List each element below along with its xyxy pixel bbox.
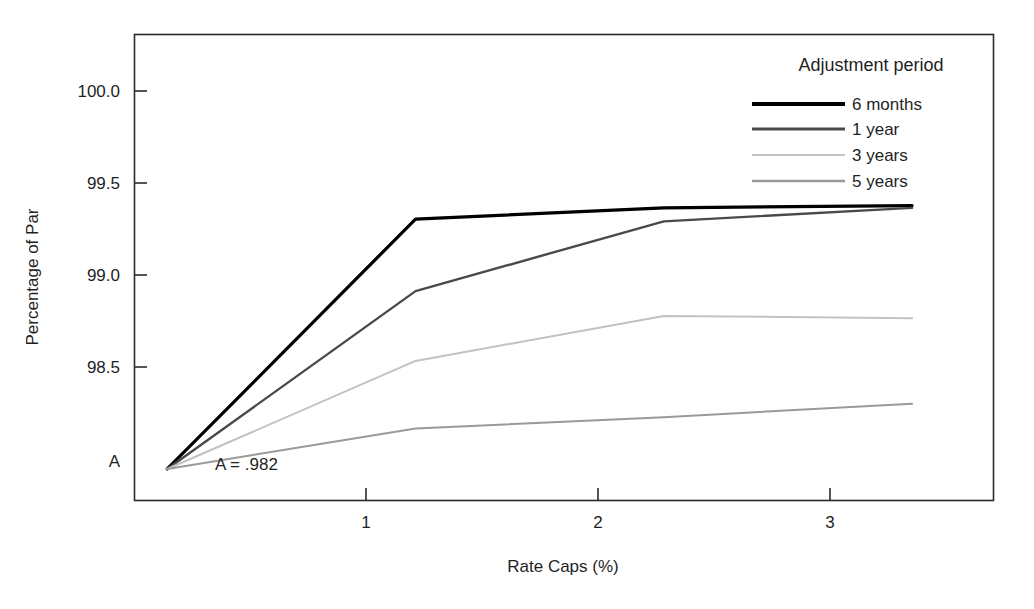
- x-tick-label-1: 1: [361, 513, 370, 532]
- y-tick-label-99-0: 99.0: [87, 266, 120, 285]
- y-tick-label-99-5: 99.5: [87, 174, 120, 193]
- base-value-annotation: A = .982: [215, 455, 278, 474]
- legend-label-1-year: 1 year: [852, 120, 900, 139]
- y-tick-label-98-5: 98.5: [87, 358, 120, 377]
- legend-label-5-years: 5 years: [852, 172, 908, 191]
- x-tick-label-3: 3: [825, 513, 834, 532]
- legend-label-3-years: 3 years: [852, 146, 908, 165]
- x-axis-title: Rate Caps (%): [507, 557, 618, 576]
- x-tick-label-2: 2: [593, 513, 602, 532]
- chart-figure: 100.0 99.5 99.0 98.5 A 1 2 3 Rate Caps (…: [0, 0, 1034, 609]
- legend-title: Adjustment period: [798, 55, 943, 75]
- legend-label-6-months: 6 months: [852, 95, 922, 114]
- line-chart-svg: 100.0 99.5 99.0 98.5 A 1 2 3 Rate Caps (…: [0, 0, 1034, 609]
- y-tick-label-100: 100.0: [77, 82, 120, 101]
- y-tick-label-a: A: [109, 452, 121, 471]
- y-axis-title: Percentage of Par: [23, 208, 42, 345]
- chart-background: [0, 0, 1034, 609]
